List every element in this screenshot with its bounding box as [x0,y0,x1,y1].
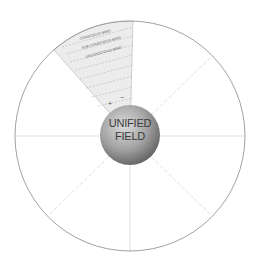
label-line-2: FIELD [100,130,160,143]
minus-symbol: − [120,94,124,101]
unified-field-label: UNIFIED FIELD [100,106,160,143]
label-line-1: UNIFIED [100,117,160,130]
